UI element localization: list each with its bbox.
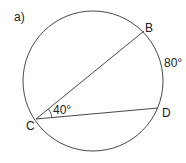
angle-label: 40° (53, 104, 71, 116)
point-d-label: D (162, 107, 171, 119)
circle (23, 11, 163, 151)
point-b-label: B (145, 22, 153, 34)
arc-label: 80° (164, 57, 182, 69)
angle-arc (48, 109, 52, 118)
point-c-label: C (26, 120, 35, 132)
part-label: a) (14, 11, 25, 23)
circle-diagram (0, 0, 186, 163)
